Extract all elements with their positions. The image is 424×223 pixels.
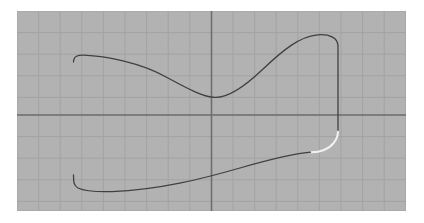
grid-canvas[interactable] — [17, 11, 406, 211]
screenshot-root — [0, 0, 424, 223]
canvas-svg[interactable] — [17, 11, 406, 211]
